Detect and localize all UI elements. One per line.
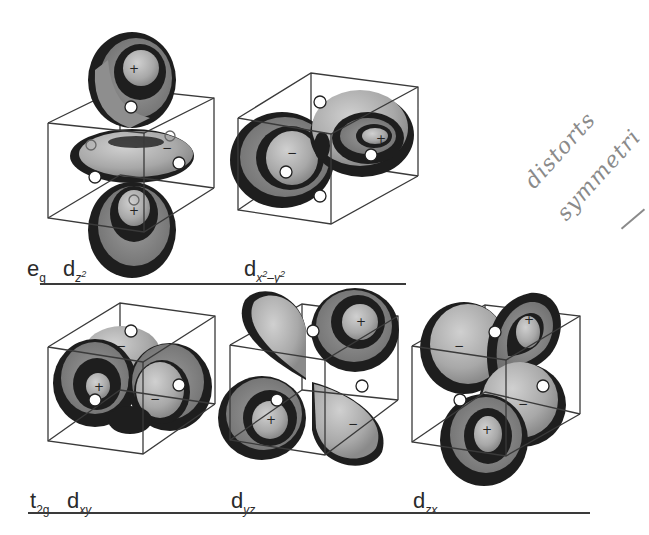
sign-minus: − xyxy=(454,339,464,353)
sign-plus: + xyxy=(266,413,276,427)
sign-plus: + xyxy=(129,204,139,218)
eg-underline xyxy=(40,283,406,285)
dz2-label: dz2 xyxy=(63,258,86,284)
orbital-dz2: + − + xyxy=(48,32,214,278)
eg-set-label: eg xyxy=(27,258,46,284)
sign-minus: − xyxy=(287,146,297,160)
orbital-dyz: + + − xyxy=(218,288,399,466)
sign-plus: + xyxy=(94,380,104,394)
sign-minus: − xyxy=(348,417,358,431)
sign-plus: + xyxy=(482,423,492,437)
orbital-dx2-y2: − + xyxy=(230,73,418,224)
orbital-diagram: + − + xyxy=(0,0,649,535)
orbital-dzx: + − − + xyxy=(412,293,580,486)
sign-minus: − xyxy=(518,397,528,411)
sign-minus: − xyxy=(116,339,126,353)
sign-plus: + xyxy=(356,315,366,329)
t2g-underline xyxy=(28,512,590,514)
dx2-y2-label: dx2–y2 xyxy=(244,258,285,284)
d-orbital-figure: + − + xyxy=(0,0,649,535)
sign-minus: − xyxy=(150,392,160,406)
sign-plus: + xyxy=(376,132,386,146)
sign-plus: + xyxy=(129,62,139,76)
orbital-dxy: + − − xyxy=(48,303,215,454)
sign-plus: + xyxy=(524,313,534,327)
sign-minus: − xyxy=(162,141,172,155)
